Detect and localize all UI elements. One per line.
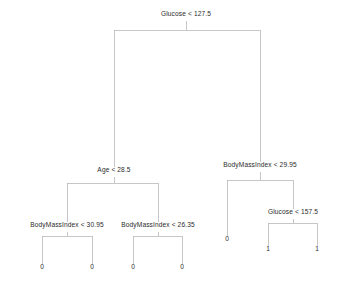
edge-connector — [227, 180, 260, 236]
tree-split-node-n0: Glucose < 127.5 — [161, 10, 211, 17]
tree-edge-left — [114, 21, 186, 167]
tree-split-node-n6: Glucose < 157.5 — [268, 208, 318, 215]
tree-edge-right — [67, 236, 92, 264]
tree-split-node-n1: Age < 28.5 — [97, 166, 130, 174]
edge-connector — [268, 223, 293, 246]
tree-edge-left — [268, 219, 293, 246]
tree-split-node-n2: BodyMassIndex < 29.95 — [223, 161, 297, 169]
decision-tree-figure: Glucose < 127.5Age < 28.5BodyMassIndex <… — [0, 0, 340, 291]
edge-connector — [186, 30, 260, 162]
edge-connector — [114, 30, 186, 167]
tree-edge-right — [260, 180, 293, 209]
tree-split-node-n4: BodyMassIndex < 26.35 — [121, 221, 195, 229]
tree-leaf-n8: 0 — [90, 263, 94, 270]
edge-connector — [158, 236, 182, 264]
tree-leaf-n11: 1 — [266, 245, 270, 252]
tree-edge-right — [293, 223, 317, 246]
edge-connector — [114, 183, 158, 222]
edge-connector — [260, 180, 293, 209]
tree-edge-right — [186, 30, 260, 162]
edge-connector — [133, 236, 158, 264]
tree-leaf-n9: 0 — [131, 263, 135, 270]
tree-edge-left — [42, 232, 67, 264]
tree-leaf-n5: 0 — [225, 235, 229, 242]
edge-connector — [293, 223, 317, 246]
node-layer: Glucose < 127.5Age < 28.5BodyMassIndex <… — [30, 10, 319, 270]
tree-edge-left — [227, 172, 260, 236]
edge-connector — [67, 183, 114, 222]
tree-leaf-n10: 0 — [180, 263, 184, 270]
edge-connector — [67, 236, 92, 264]
tree-split-node-n3: BodyMassIndex < 30.95 — [30, 221, 104, 229]
edge-connector — [42, 236, 67, 264]
tree-edge-right — [114, 183, 158, 222]
tree-edge-left — [67, 177, 114, 222]
tree-leaf-n7: 0 — [40, 263, 44, 270]
tree-edge-right — [158, 236, 182, 264]
decision-tree-canvas: Glucose < 127.5Age < 28.5BodyMassIndex <… — [0, 0, 340, 291]
tree-leaf-n12: 1 — [315, 245, 319, 252]
tree-edge-left — [133, 232, 158, 264]
